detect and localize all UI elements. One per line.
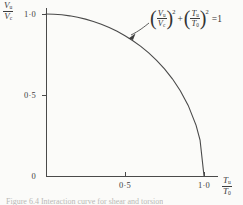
annotation-leader-line bbox=[131, 23, 149, 35]
figure-container: Vu Vc 1·0 0·5 0 0·5 1·0 Tu T0 ( Vu Vc )2… bbox=[0, 0, 243, 205]
figure-caption: Figure 6.4 Interaction curve for shear a… bbox=[6, 197, 163, 205]
term1-denominator-sub: c bbox=[163, 22, 165, 28]
term1-denominator: Vc bbox=[157, 19, 167, 28]
term1-open-paren: ( bbox=[150, 7, 157, 29]
term2-denominator: T0 bbox=[190, 19, 199, 28]
term2-denominator-sub: 0 bbox=[196, 22, 199, 28]
term2-numerator-sub: u bbox=[196, 12, 199, 18]
term1-exponent: 2 bbox=[172, 8, 175, 15]
term2-fraction: Tu T0 bbox=[190, 9, 199, 29]
term1-numerator-sub: u bbox=[163, 12, 166, 18]
plot-curve-svg bbox=[0, 0, 243, 205]
term2-open-paren: ( bbox=[184, 7, 191, 29]
term1-fraction: Vu Vc bbox=[157, 9, 167, 29]
equation-annotation: ( Vu Vc )2+( Tu T0 )2=1 bbox=[150, 9, 222, 29]
term2-exponent: 2 bbox=[206, 8, 209, 15]
interaction-curve-path bbox=[46, 14, 204, 176]
equation-right-hand-side: 1 bbox=[217, 14, 222, 24]
equation-operator: + bbox=[176, 14, 183, 24]
